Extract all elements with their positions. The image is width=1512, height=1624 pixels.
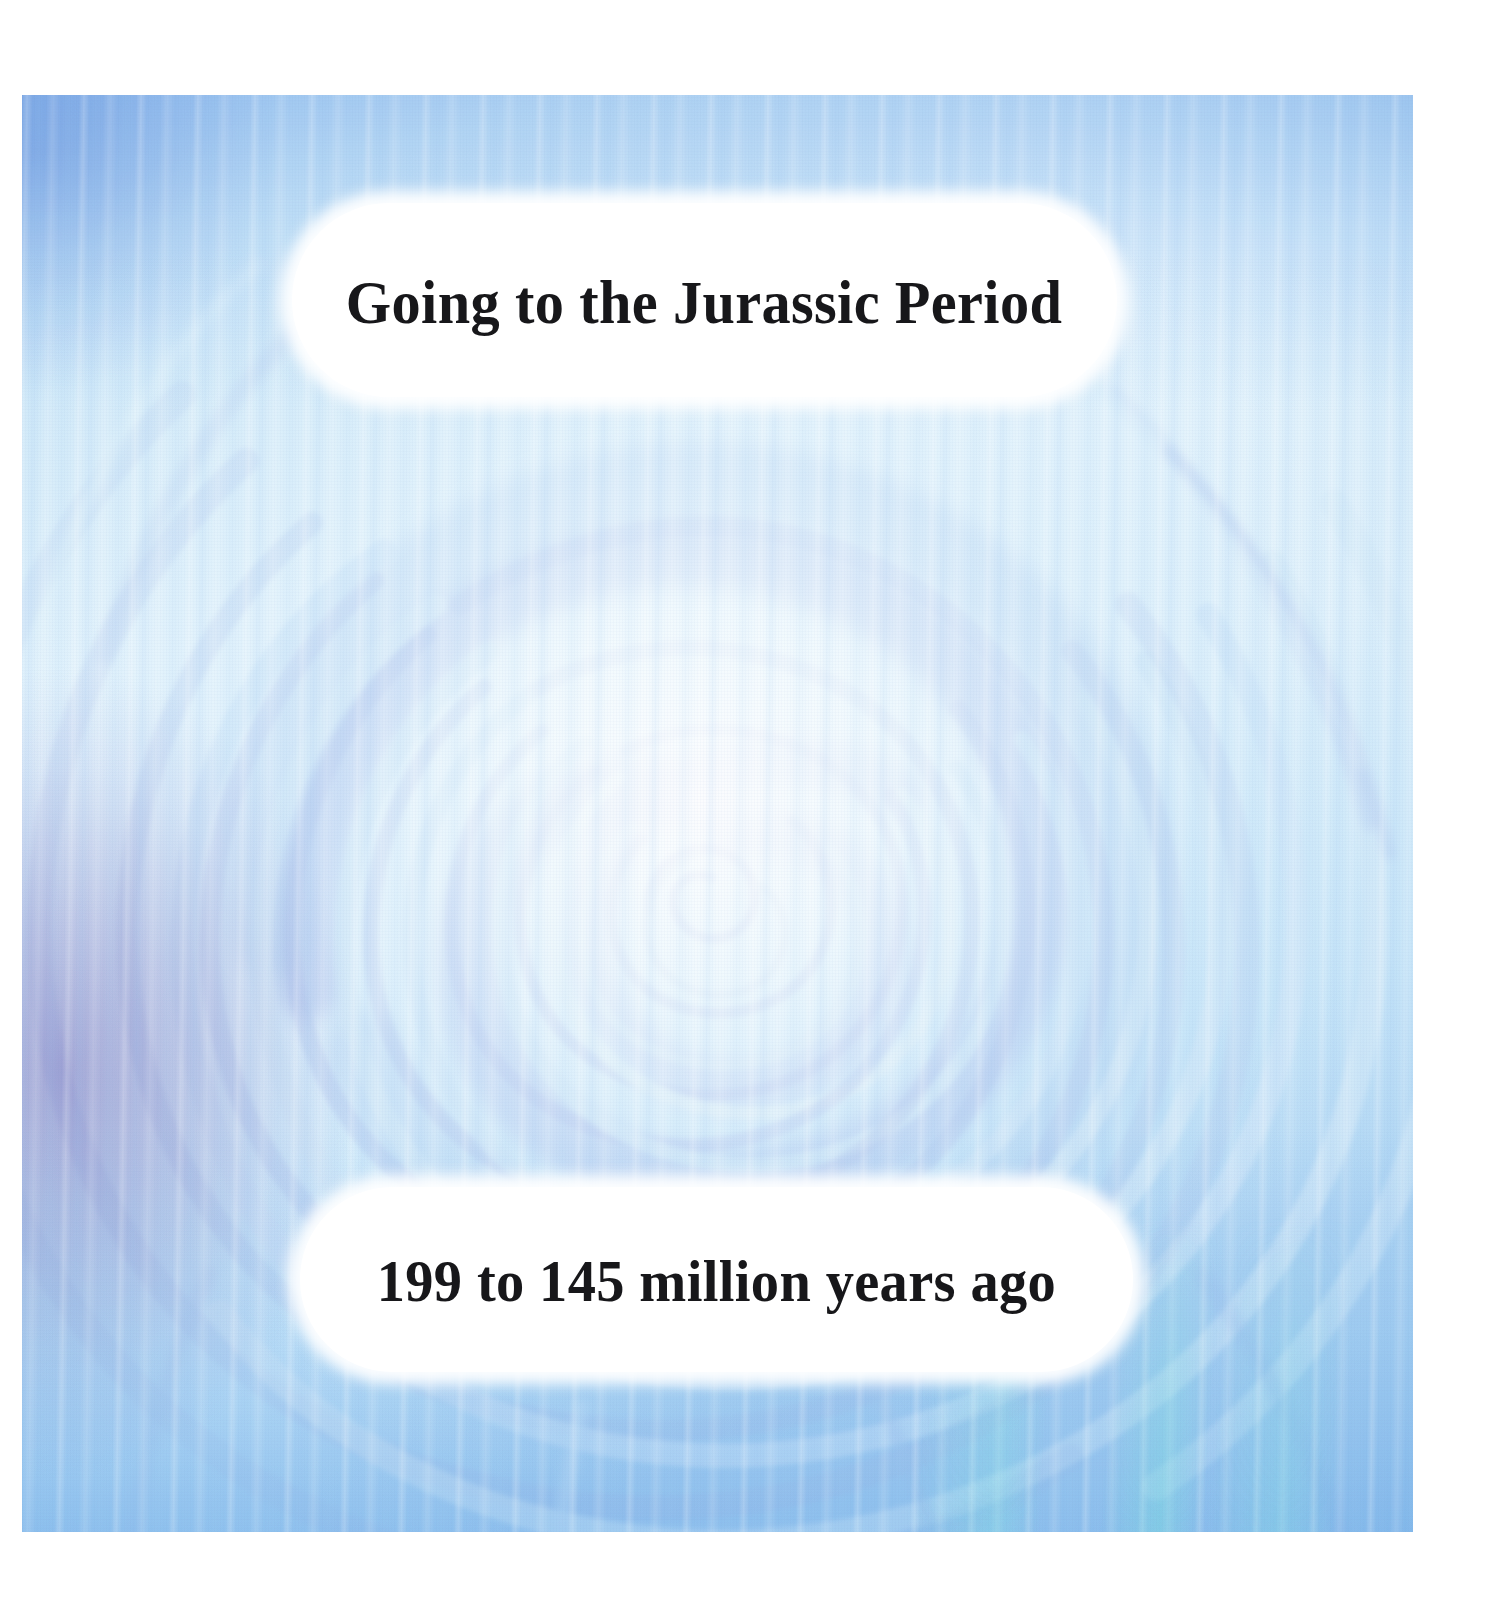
title-pill: Going to the Jurassic Period	[292, 203, 1117, 397]
subtitle-pill: 199 to 145 million years ago	[300, 1187, 1133, 1372]
page-title: Going to the Jurassic Period	[346, 271, 1062, 333]
poster-page: Going to the Jurassic Period 199 to 145 …	[0, 0, 1512, 1624]
page-subtitle: 199 to 145 million years ago	[377, 1251, 1056, 1311]
